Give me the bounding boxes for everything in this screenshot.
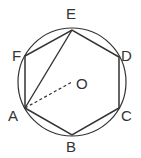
label-a: A xyxy=(8,107,18,124)
label-e: E xyxy=(66,5,76,22)
hexagon-abcdef xyxy=(25,30,119,135)
hexagon-diagram: E F D O A C B xyxy=(0,0,141,158)
label-f: F xyxy=(12,47,21,64)
label-b: B xyxy=(66,138,76,155)
segment-ae xyxy=(25,30,72,108)
label-o: O xyxy=(76,75,88,92)
label-d: D xyxy=(121,47,132,64)
label-c: C xyxy=(121,107,132,124)
